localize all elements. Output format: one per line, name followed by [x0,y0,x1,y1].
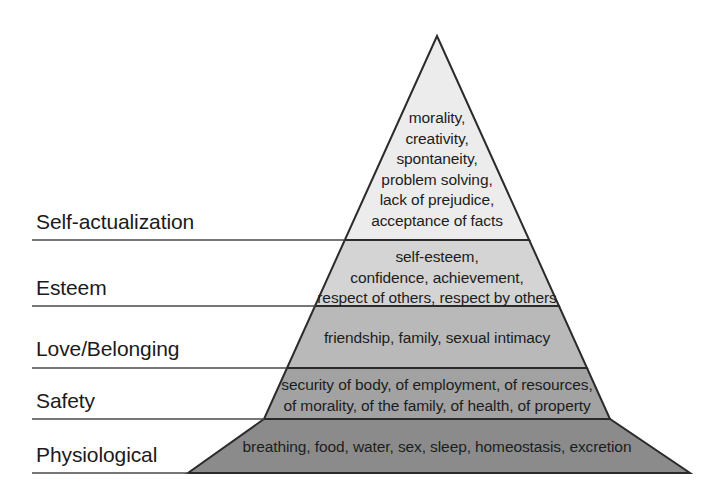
tier-label-love-belonging: Love/Belonging [36,338,179,359]
tier-description-safety: security of body, of employment, of reso… [212,375,662,416]
tier-label-esteem: Esteem [36,277,107,298]
tier-label-self-actualization: Self-actualization [36,211,194,232]
tier-description-self-actualization: morality,creativity,spontaneity,problem … [287,108,587,232]
tier-label-physiological: Physiological [36,444,157,465]
tier-label-safety: Safety [36,390,95,411]
tier-description-esteem: self-esteem,confidence, achievement,resp… [237,247,637,309]
tier-description-physiological: breathing, food, water, sex, sleep, home… [187,437,687,458]
tier-description-love-belonging: friendship, family, sexual intimacy [237,328,637,349]
maslow-hierarchy-diagram: Self-actualization Esteem Love/Belonging… [0,0,717,502]
